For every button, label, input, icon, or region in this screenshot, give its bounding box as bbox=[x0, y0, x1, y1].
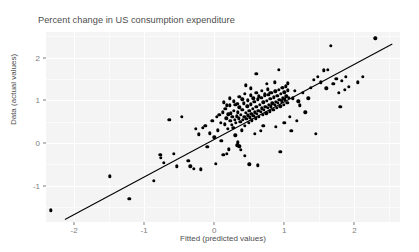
y-tick-mark-1 bbox=[43, 143, 46, 144]
y-tick-mark-0 bbox=[43, 185, 46, 186]
scatter-plot-figure: Percent change in US consumption expendi… bbox=[0, 0, 419, 252]
x-tick-label-3: 1 bbox=[274, 226, 294, 235]
x-tick-label-2: 0 bbox=[204, 226, 224, 235]
y-tick-label-1: 0 bbox=[20, 139, 40, 148]
x-tick-mark-1 bbox=[144, 222, 145, 225]
y-axis-label: Data (actual values) bbox=[9, 35, 18, 145]
x-tick-mark-2 bbox=[214, 222, 215, 225]
x-tick-label-4: 2 bbox=[344, 226, 364, 235]
y-tick-mark-3 bbox=[43, 57, 46, 58]
x-tick-mark-3 bbox=[284, 222, 285, 225]
x-tick-mark-0 bbox=[74, 222, 75, 225]
x-tick-label-1: -1 bbox=[134, 226, 154, 235]
page-title: Percent change in US consumption expendi… bbox=[38, 15, 235, 25]
identity-line bbox=[46, 32, 400, 222]
x-tick-label-0: -2 bbox=[64, 226, 84, 235]
x-axis-label: Fitted (predicted values) bbox=[46, 234, 400, 243]
x-tick-mark-4 bbox=[354, 222, 355, 225]
y-tick-mark-2 bbox=[43, 100, 46, 101]
y-tick-label-3: 2 bbox=[20, 53, 40, 62]
y-tick-label-0: -1 bbox=[20, 181, 40, 190]
y-tick-label-2: 1 bbox=[20, 96, 40, 105]
plot-panel bbox=[46, 32, 400, 222]
